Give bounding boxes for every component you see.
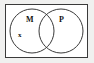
venn-diagram-figure: M P x — [0, 0, 94, 63]
element-label-x: x — [18, 32, 22, 39]
venn-circles — [0, 0, 94, 63]
set-label-p: P — [59, 16, 64, 24]
set-label-m: M — [26, 16, 34, 24]
